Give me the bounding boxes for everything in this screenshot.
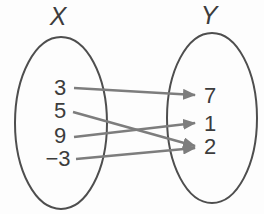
set-x-label: X bbox=[49, 2, 68, 30]
x-element-neg3: −3 bbox=[45, 146, 70, 171]
arrow-neg3-to-2 bbox=[76, 148, 195, 159]
diagram-svg: X Y 3 5 9 −3 7 1 2 bbox=[0, 0, 264, 214]
arrow-9-to-1 bbox=[74, 123, 195, 137]
y-element-7: 7 bbox=[204, 83, 216, 108]
y-element-2: 2 bbox=[204, 134, 216, 159]
x-element-9: 9 bbox=[54, 123, 66, 148]
mapping-diagram: X Y 3 5 9 −3 7 1 2 bbox=[0, 0, 264, 214]
y-element-1: 1 bbox=[204, 111, 216, 136]
arrow-3-to-7 bbox=[74, 88, 195, 95]
set-y-label: Y bbox=[201, 1, 220, 29]
x-element-5: 5 bbox=[54, 98, 66, 123]
x-element-3: 3 bbox=[54, 75, 66, 100]
